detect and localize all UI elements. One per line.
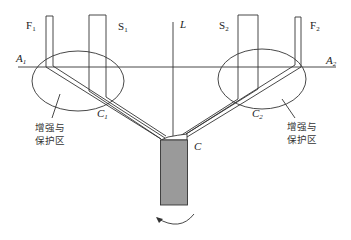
fiber-f1-inner [53,16,165,138]
label-s1: S1 [118,20,128,34]
fiber-s2-left [180,15,238,136]
right-zone-ellipse [218,49,306,109]
label-c: C [194,140,202,152]
left-zone-label-line2: 保护区 [35,135,65,146]
label-f2: F2 [310,19,320,33]
right-zone-label-line1: 增强与 [287,121,317,132]
rotating-block [161,140,188,205]
label-l: L [179,18,186,30]
fiber-f2-outer [187,17,301,137]
fiber-s1-right [106,15,166,136]
rotation-arrowhead-icon [156,217,163,223]
fiber-f2-inner [186,17,295,134]
label-f1: F1 [26,19,36,33]
right-zone-label-line2: 保护区 [287,134,317,145]
label-a1: A1 [15,52,26,66]
fiber-splice-diagram: F1 S1 L S2 F2 A1 A2 C1 C2 C 增强与 保护区 增强与 … [0,0,351,240]
label-a2: A2 [325,54,337,68]
right-zone-pointer [282,99,295,118]
label-c1: C1 [97,107,108,121]
left-zone-label-line1: 增强与 [35,122,65,133]
label-s2: S2 [219,19,229,33]
